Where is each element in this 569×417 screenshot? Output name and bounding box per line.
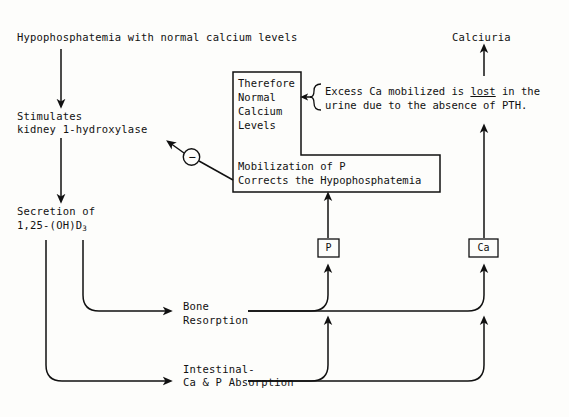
annotation-line2: urine due to the absence of PTH.	[325, 98, 527, 112]
secretion-formula-base: 1,25-(OH)D	[17, 219, 82, 231]
annotation-emphasis-lost: lost	[470, 85, 495, 97]
node-secretion-line1: Secretion of	[17, 205, 95, 218]
stepbox-upper-line4: Levels	[238, 119, 276, 133]
arrow-secretion-to-bone-resorption	[83, 240, 168, 311]
inhibition-minus-label: −	[184, 152, 200, 163]
inhibition-arrow-to-hydroxylase	[170, 143, 184, 153]
secretion-formula-subscript: 3	[82, 224, 87, 233]
annotation-line1-part-a: Excess Ca mobilized is	[325, 85, 470, 97]
arrow-intestinal-to-ca	[248, 320, 484, 381]
stepbox-lower-line1: Mobilization of P	[238, 160, 345, 174]
stepbox-upper-line1: Therefore	[238, 77, 295, 91]
title-hypophosphatemia: Hypophosphatemia with normal calcium lev…	[17, 31, 297, 44]
node-stimulates-line2: kidney 1-hydroxylase	[17, 123, 147, 136]
diagram-canvas: Hypophosphatemia with normal calcium lev…	[0, 0, 569, 417]
stepbox-lower-line2: Corrects the Hypophosphatemia	[238, 174, 421, 188]
stepbox-upper-line3: Calcium	[238, 105, 282, 119]
node-intestinal-line2: Ca & P Absorption	[183, 376, 294, 389]
annotation-line1-part-b: in the	[496, 85, 540, 97]
stepbox-upper-line2: Normal	[238, 91, 276, 105]
node-bone-line2: Resorption	[183, 314, 248, 327]
node-bone-line1: Bone	[183, 300, 209, 313]
ca-token-label: Ca	[469, 243, 498, 253]
annotation-brace	[310, 84, 321, 110]
arrow-bone-resorption-to-p	[248, 268, 328, 311]
inhibition-line-lower	[199, 161, 233, 180]
arrow-intestinal-to-p	[248, 320, 328, 381]
title-calciuria: Calciuria	[452, 31, 511, 44]
annotation-line1: Excess Ca mobilized is lost in the	[325, 84, 540, 98]
node-stimulates-line1: Stimulates	[17, 110, 82, 123]
node-intestinal-line1: Intestinal-	[183, 363, 255, 376]
p-token-label: P	[318, 243, 339, 253]
node-secretion-line2: 1,25-(OH)D3	[17, 219, 87, 232]
arrow-bone-resorption-to-ca	[248, 268, 484, 311]
